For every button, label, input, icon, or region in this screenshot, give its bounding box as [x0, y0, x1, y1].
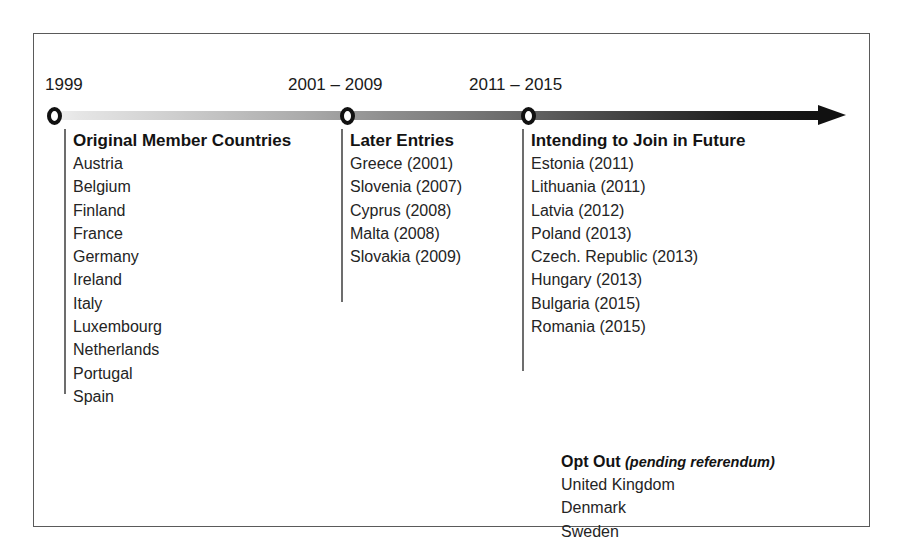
list-item: Denmark [561, 496, 775, 519]
list-item: France [73, 222, 291, 245]
axis-label-3: 2011 – 2015 [469, 75, 562, 95]
timeline-bar [47, 111, 822, 120]
list-item: Austria [73, 152, 291, 175]
list-item: Netherlands [73, 338, 291, 361]
list-item: Malta (2008) [350, 222, 462, 245]
list-item: Bulgaria (2015) [531, 292, 745, 315]
column-list-intending-to-join: Estonia (2011) Lithuania (2011) Latvia (… [531, 152, 745, 338]
list-item: Lithuania (2011) [531, 175, 745, 198]
axis-marker-2 [340, 107, 355, 125]
opt-out-list: United Kingdom Denmark Sweden [561, 473, 775, 543]
list-item: Slovakia (2009) [350, 245, 462, 268]
list-item: Czech. Republic (2013) [531, 245, 745, 268]
list-item: Poland (2013) [531, 222, 745, 245]
list-item: Portugal [73, 362, 291, 385]
list-item: Greece (2001) [350, 152, 462, 175]
list-item: Ireland [73, 268, 291, 291]
list-item: Romania (2015) [531, 315, 745, 338]
axis-label-2: 2001 – 2009 [288, 75, 383, 95]
timeline-column-intending-to-join: Intending to Join in Future Estonia (201… [522, 129, 745, 371]
list-item: Hungary (2013) [531, 268, 745, 291]
axis-marker-1 [47, 107, 62, 125]
list-item: Germany [73, 245, 291, 268]
list-item: Spain [73, 385, 291, 408]
list-item: Cyprus (2008) [350, 199, 462, 222]
opt-out-note: (pending referendum) [625, 454, 775, 470]
list-item: Slovenia (2007) [350, 175, 462, 198]
timeline-arrowhead-icon [818, 105, 846, 125]
list-item: Estonia (2011) [531, 152, 745, 175]
figure-frame: 1999 2001 – 2009 2011 – 2015 Original Me… [33, 33, 870, 527]
column-list-later-entries: Greece (2001) Slovenia (2007) Cyprus (20… [350, 152, 462, 268]
column-title-intending-to-join: Intending to Join in Future [531, 129, 745, 152]
list-item: Finland [73, 199, 291, 222]
list-item: Latvia (2012) [531, 199, 745, 222]
opt-out-heading: Opt Out (pending referendum) [561, 451, 775, 473]
column-title-original-members: Original Member Countries [73, 129, 291, 152]
list-item: Luxembourg [73, 315, 291, 338]
list-item: United Kingdom [561, 473, 775, 496]
opt-out-block: Opt Out (pending referendum) United King… [561, 451, 775, 543]
list-item: Sweden [561, 520, 775, 543]
column-title-later-entries: Later Entries [350, 129, 462, 152]
timeline-axis: 1999 2001 – 2009 2011 – 2015 [34, 100, 871, 130]
timeline-column-original-members: Original Member Countries Austria Belgiu… [64, 129, 291, 394]
axis-marker-3 [521, 107, 536, 125]
axis-label-1: 1999 [45, 75, 83, 95]
list-item: Italy [73, 292, 291, 315]
opt-out-title: Opt Out [561, 453, 621, 470]
timeline-column-later-entries: Later Entries Greece (2001) Slovenia (20… [341, 129, 462, 302]
column-list-original-members: Austria Belgium Finland France Germany I… [73, 152, 291, 408]
list-item: Belgium [73, 175, 291, 198]
